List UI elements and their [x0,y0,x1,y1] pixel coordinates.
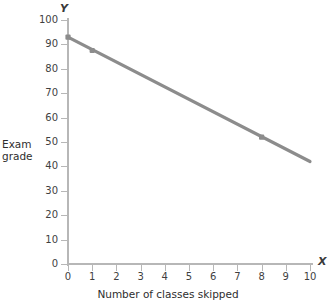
series-line [68,37,310,161]
chart-figure: Y X Exam grade Number of classes skipped… [0,0,336,306]
data-series-layer [0,0,336,306]
data-point-marker [90,48,95,53]
data-point-marker [259,135,264,140]
data-point-marker [65,34,70,39]
